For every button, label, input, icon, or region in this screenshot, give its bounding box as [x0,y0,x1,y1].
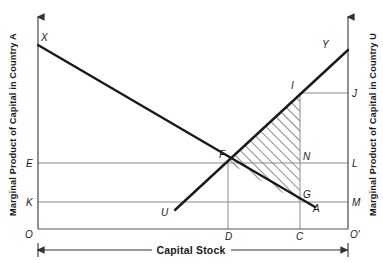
axis-title-right: Marginal Product of Capital in Country U [368,33,378,216]
economics-diagram: X Y U A E K O J L M O' F I N G D C Margi… [0,0,383,263]
label-F: F [219,149,226,160]
label-O-prime: O' [350,229,361,240]
diagram-canvas: X Y U A E K O J L M O' F I N G D C Margi… [0,0,383,263]
label-G: G [303,189,311,200]
curve-country-u [175,50,348,210]
label-Y: Y [322,39,330,50]
label-X: X [40,32,48,43]
label-E: E [26,158,33,169]
label-K: K [26,197,34,208]
label-A: A [312,203,320,214]
label-N: N [303,151,311,162]
label-M: M [352,197,361,208]
axis-title-left: Marginal Product of Capital in Country A [8,33,18,216]
label-I: I [291,80,294,91]
label-U: U [161,207,169,218]
label-D: D [225,231,232,242]
label-O: O [25,229,33,240]
label-L: L [352,158,358,169]
shaded-region-gains [228,93,300,202]
label-J: J [351,88,358,99]
label-C: C [296,231,304,242]
axis-title-bottom: Capital Stock [156,244,225,256]
